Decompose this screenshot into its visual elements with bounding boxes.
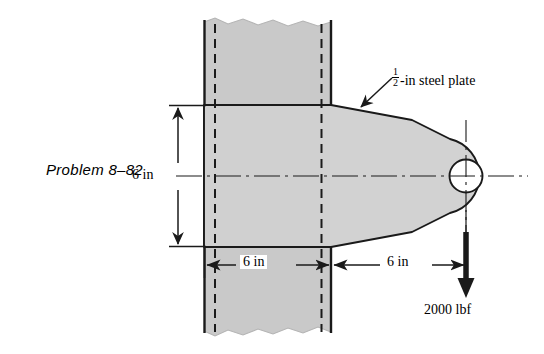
fraction-numerator: 1 — [392, 67, 399, 77]
problem-label: Problem 8–82 — [46, 162, 143, 177]
plate-note-text: -in steel plate — [400, 73, 475, 88]
dimension-label-embedded-length: 6 in — [240, 255, 267, 269]
leader-line-plate-note — [361, 78, 392, 107]
plate-thickness-fraction: 1 2 — [392, 67, 399, 88]
dimension-label-overhang-length: 6 in — [384, 255, 411, 269]
plate-thickness-note: 1 2 -in steel plate — [392, 66, 475, 88]
dimension-label-plate-height: 6 in — [132, 168, 153, 182]
force-arrowhead — [458, 278, 475, 298]
fraction-denominator: 2 — [392, 77, 399, 88]
force-label: 2000 lbf — [424, 303, 471, 317]
